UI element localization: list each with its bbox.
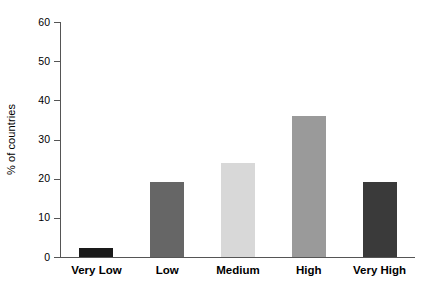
y-tick-mark [54, 22, 60, 23]
bar-slot [203, 22, 274, 257]
bar-slot [273, 22, 344, 257]
bar [292, 116, 326, 257]
bar [221, 163, 255, 257]
x-tick-label: High [273, 264, 344, 276]
y-tick-label: 40 [10, 95, 50, 106]
bar-slot [61, 22, 132, 257]
bar-slot [132, 22, 203, 257]
x-tick-label: Very Low [61, 264, 132, 276]
y-tick-mark [54, 61, 60, 62]
y-tick-mark [54, 257, 60, 258]
x-tick-label: Low [132, 264, 203, 276]
bar-slot [344, 22, 415, 257]
y-tick-label: 20 [10, 173, 50, 184]
y-tick-label: 50 [10, 56, 50, 67]
y-tick-label: 30 [10, 134, 50, 145]
y-tick-label: 0 [10, 252, 50, 263]
y-tick-label: 60 [10, 17, 50, 28]
y-tick-mark [54, 100, 60, 101]
y-tick-mark [54, 140, 60, 141]
y-axis-title: % of countries [0, 0, 22, 294]
x-axis-labels: Very LowLowMediumHighVery High [61, 264, 415, 284]
bar [363, 182, 397, 257]
bar-chart: % of countries 0102030405060 Very LowLow… [0, 0, 422, 294]
plot-area [61, 22, 415, 257]
y-tick-label: 10 [10, 212, 50, 223]
bar [150, 182, 184, 257]
x-tick-label: Very High [344, 264, 415, 276]
bar [79, 248, 113, 257]
x-tick-label: Medium [203, 264, 274, 276]
x-axis-line [60, 257, 415, 258]
y-tick-mark [54, 218, 60, 219]
y-tick-mark [54, 179, 60, 180]
